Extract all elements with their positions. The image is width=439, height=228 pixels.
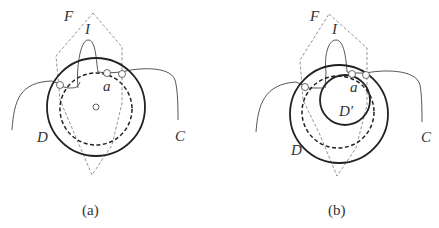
label-d-prime: D′ (338, 103, 354, 119)
label-d: D (36, 129, 48, 145)
label-i: I (331, 21, 338, 37)
point-right (119, 71, 126, 78)
region-f-polygon (300, 14, 367, 176)
dashed-circle (302, 76, 374, 148)
label-f: F (309, 8, 320, 24)
region-f-polygon (56, 13, 122, 175)
curve-c (12, 40, 178, 130)
caption-b: (b) (328, 202, 346, 219)
label-i: I (84, 21, 91, 37)
point-a (349, 71, 356, 78)
figure: F I a D C (a) F I a D′ D C (b) (0, 0, 439, 228)
label-a: a (103, 78, 111, 94)
point-left (302, 84, 309, 91)
label-d: D (290, 142, 302, 158)
caption-a: (a) (82, 202, 99, 219)
point-a (104, 70, 111, 77)
label-f: F (63, 8, 74, 24)
panel-b: F I a D′ D C (b) (256, 8, 432, 219)
label-c: C (175, 128, 186, 144)
panel-a: F I a D C (a) (12, 8, 186, 219)
label-c: C (421, 129, 432, 145)
label-a: a (350, 79, 358, 95)
center-point (93, 104, 99, 110)
point-left (57, 82, 64, 89)
point-right (363, 72, 370, 79)
